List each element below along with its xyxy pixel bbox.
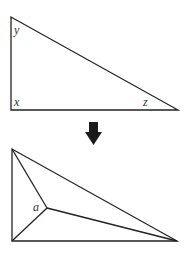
triangle-diagram: y x z a	[0, 0, 186, 260]
label-a: a	[33, 200, 39, 214]
label-x: x	[13, 95, 20, 109]
down-arrow-icon	[85, 122, 102, 145]
top-triangle	[11, 17, 178, 110]
label-y: y	[13, 23, 20, 37]
label-z: z	[142, 95, 148, 109]
bottom-triangle	[12, 149, 177, 241]
